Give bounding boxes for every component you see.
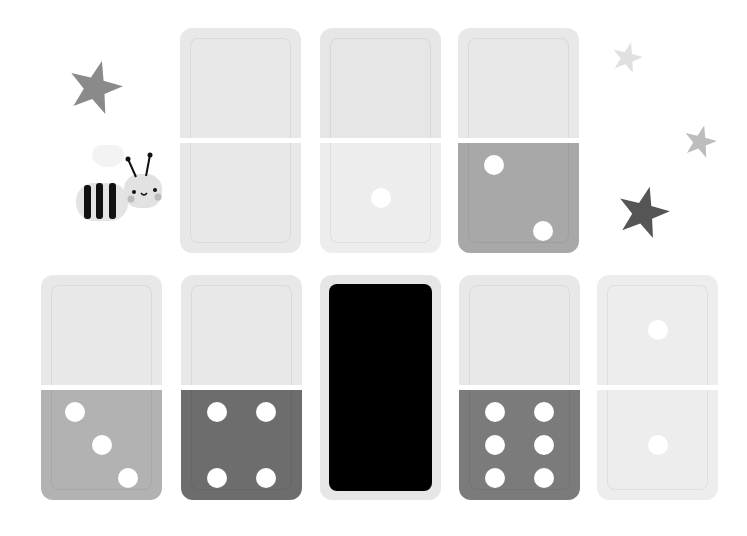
pip-dot [534, 402, 554, 422]
domino-half-bottom [459, 390, 580, 500]
star-icon [67, 60, 123, 120]
domino-tile-d1[interactable] [180, 28, 301, 253]
pip-dot [534, 468, 554, 488]
pip-dot [648, 320, 668, 340]
domino-half-top [320, 28, 441, 138]
bee-icon [70, 145, 170, 225]
domino-back [320, 275, 441, 500]
domino-half-bottom [180, 143, 301, 253]
pip-dot [256, 402, 276, 422]
star-icon [683, 125, 717, 163]
domino-half-top [597, 275, 718, 385]
pip-dot [485, 435, 505, 455]
pip-dot [484, 155, 504, 175]
pip-dot [485, 468, 505, 488]
domino-tile-d5[interactable] [181, 275, 302, 500]
pip-dot [371, 188, 391, 208]
pip-dot [207, 468, 227, 488]
domino-tile-d2[interactable] [320, 28, 441, 253]
pip-dot [256, 468, 276, 488]
domino-hidden-face [329, 284, 432, 491]
pip-dot [207, 402, 227, 422]
pip-dot [65, 402, 85, 422]
domino-half-top [459, 275, 580, 385]
domino-half-bottom [320, 143, 441, 253]
pip-dot [118, 468, 138, 488]
domino-tile-d6[interactable] [320, 275, 441, 500]
domino-half-top [41, 275, 162, 385]
pip-dot [485, 402, 505, 422]
pip-dot [648, 435, 668, 455]
domino-tile-d3[interactable] [458, 28, 579, 253]
domino-tile-d8[interactable] [597, 275, 718, 500]
domino-tile-d4[interactable] [41, 275, 162, 500]
domino-half-bottom [458, 143, 579, 253]
domino-half-bottom [181, 390, 302, 500]
pip-dot [533, 221, 553, 241]
star-icon [611, 42, 643, 78]
pip-dot [92, 435, 112, 455]
domino-half-bottom [41, 390, 162, 500]
domino-half-top [180, 28, 301, 138]
domino-half-top [181, 275, 302, 385]
star-icon [616, 186, 670, 244]
domino-tile-d7[interactable] [459, 275, 580, 500]
domino-half-top [458, 28, 579, 138]
domino-half-bottom [597, 390, 718, 500]
pip-dot [534, 435, 554, 455]
